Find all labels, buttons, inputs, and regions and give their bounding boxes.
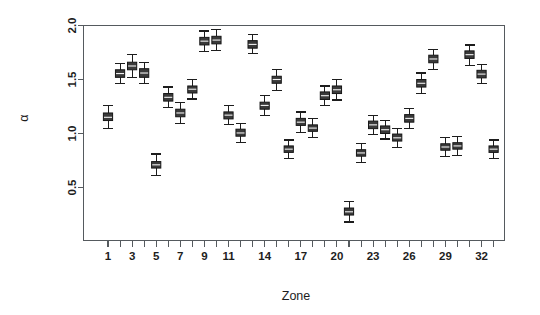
x-tick-label: 20 — [331, 250, 344, 262]
boxplot-item — [187, 80, 197, 99]
y-tick-label: 2.0 — [66, 18, 78, 34]
boxplot-item — [440, 138, 450, 156]
y-tick-label: 1.5 — [66, 71, 78, 88]
x-tick-label: 14 — [258, 250, 271, 262]
boxplot-item — [224, 105, 234, 124]
boxplot-item — [139, 62, 149, 84]
boxplot-item — [199, 31, 209, 52]
boxplot-item — [115, 63, 125, 84]
boxplot-item — [103, 105, 113, 128]
plot-border — [84, 26, 505, 241]
plot-frame — [84, 26, 505, 241]
x-tick-label: 7 — [177, 250, 183, 262]
boxplot-item — [320, 86, 330, 105]
x-tick-label: 26 — [403, 250, 416, 262]
boxplot-canvas: 0.51.01.52.0 135791114172023262932 α Zon… — [0, 0, 540, 315]
boxplot-item — [356, 143, 366, 162]
boxplot-item — [248, 34, 258, 53]
boxplot-item — [163, 87, 173, 108]
boxplot-figure: 0.51.01.52.0 135791114172023262932 α Zon… — [0, 0, 540, 315]
y-tick-label: 1.0 — [66, 126, 78, 142]
x-tick-label: 1 — [105, 250, 112, 262]
x-tick-label: 23 — [367, 250, 380, 262]
boxplot-item — [380, 121, 390, 139]
boxplot-item — [392, 128, 402, 147]
boxplot-item — [368, 115, 378, 134]
boxplot-item — [127, 55, 137, 78]
boxplot-item — [489, 140, 499, 158]
y-axis-title: α — [17, 114, 31, 121]
x-tick-label: 5 — [153, 250, 160, 262]
x-tick-label: 11 — [222, 250, 235, 262]
boxplot-item — [428, 49, 438, 70]
boxplot-series — [103, 30, 499, 222]
boxplot-item — [272, 70, 282, 91]
boxplot-item — [175, 102, 185, 124]
boxplot-item — [296, 112, 306, 133]
boxplot-item — [344, 202, 354, 223]
boxplot-item — [452, 137, 462, 155]
x-tick-label: 9 — [201, 250, 207, 262]
y-axis: 0.51.01.52.0 — [66, 18, 84, 196]
boxplot-item — [332, 80, 342, 101]
x-axis-title: Zone — [282, 289, 311, 303]
boxplot-item — [151, 154, 161, 176]
x-tick-label: 3 — [129, 250, 135, 262]
boxplot-item — [416, 73, 426, 94]
boxplot-item — [308, 118, 318, 137]
boxplot-item — [465, 45, 475, 66]
boxplot-item — [260, 96, 270, 115]
x-tick-label: 32 — [475, 250, 488, 262]
x-axis: 135791114172023262932 — [105, 241, 494, 262]
boxplot-item — [236, 124, 246, 142]
x-tick-label: 17 — [294, 250, 307, 262]
boxplot-item — [284, 140, 294, 158]
y-tick-label: 0.5 — [66, 179, 78, 196]
x-tick-label: 29 — [439, 250, 452, 262]
boxplot-item — [404, 109, 414, 128]
boxplot-item — [211, 30, 221, 51]
boxplot-item — [477, 64, 487, 83]
